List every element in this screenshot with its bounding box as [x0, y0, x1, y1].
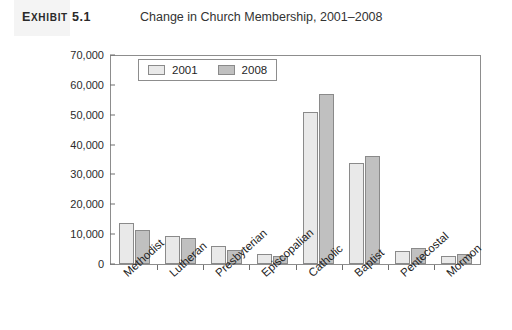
y-axis-tick-label: 50,000 — [70, 109, 104, 121]
y-axis-tick-label: 0 — [98, 258, 104, 270]
legend-label-2008: 2008 — [242, 64, 268, 76]
bar-chart: 010,00020,00030,00040,00050,00060,00070,… — [0, 38, 512, 330]
bar-baptist-2001 — [349, 163, 364, 265]
y-axis-tick-label: 20,000 — [70, 198, 104, 210]
exhibit-tag: EXHIBIT 5.1 — [22, 10, 91, 24]
y-axis-tick-label: 60,000 — [70, 79, 104, 91]
legend-item-2008: 2008 — [218, 64, 268, 76]
x-axis-labels: MethodistLutheranPresbyterianEpiscopalia… — [0, 270, 512, 330]
exhibit-tag-rest: XHIBIT — [31, 12, 68, 23]
legend-label-2001: 2001 — [172, 64, 198, 76]
y-axis-tick-label: 70,000 — [70, 49, 104, 61]
bar-series-container — [111, 55, 480, 264]
legend-swatch-2008 — [218, 65, 235, 75]
exhibit-header: EXHIBIT 5.1 Change in Church Membership,… — [0, 0, 512, 38]
exhibit-number: 5.1 — [72, 10, 91, 24]
y-axis-tick-label: 40,000 — [70, 139, 104, 151]
legend-swatch-2001 — [148, 65, 165, 75]
y-axis-tick-label: 30,000 — [70, 168, 104, 180]
chart-legend: 20012008 — [138, 59, 277, 81]
bar-catholic-2008 — [319, 94, 334, 264]
exhibit-tag-lead: E — [22, 10, 31, 24]
y-axis-labels: 010,00020,00030,00040,00050,00060,00070,… — [38, 55, 104, 265]
y-axis-tick-label: 10,000 — [70, 228, 104, 240]
page-title: Change in Church Membership, 2001–2008 — [140, 10, 383, 24]
legend-item-2001: 2001 — [148, 64, 198, 76]
bar-methodist-2001 — [119, 223, 134, 264]
